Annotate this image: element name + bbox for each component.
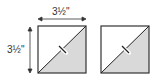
- half-square-triangle-marked: [38, 26, 86, 73]
- width-label: 3½": [52, 6, 69, 17]
- quilt-square-diagram: [0, 0, 154, 83]
- height-dimension-arrow: [28, 27, 32, 73]
- height-label: 3½": [7, 44, 24, 55]
- half-square-triangle-plain: [101, 26, 149, 73]
- width-dimension-arrow: [38, 17, 86, 21]
